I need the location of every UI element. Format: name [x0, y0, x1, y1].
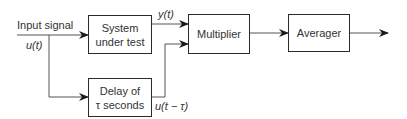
input-to-delay-arrow: [49, 35, 88, 97]
averager-label: Averager: [297, 26, 341, 40]
delay-block-line2: τ seconds: [96, 98, 144, 112]
system-output-label: y(t): [158, 8, 174, 20]
delay-output-label: u(t − τ): [155, 100, 188, 112]
input-signal-label: Input signal: [17, 19, 73, 31]
system-block-line1: System: [96, 21, 145, 35]
delay-block-line1: Delay of: [96, 84, 144, 98]
multiplier-label: Multiplier: [197, 27, 241, 41]
system-block-line2: under test: [96, 35, 145, 49]
multiplier-block: Multiplier: [188, 14, 250, 54]
delay-to-multiplier-arrow: [152, 44, 188, 97]
system-under-test-block: System under test: [88, 15, 152, 54]
averager-block: Averager: [288, 14, 350, 52]
delay-block: Delay of τ seconds: [88, 78, 152, 117]
input-signal-symbol: u(t): [26, 39, 43, 51]
